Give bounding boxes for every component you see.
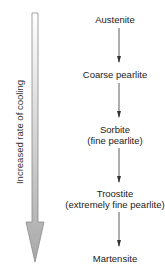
stage-coarse-pearlite: Coarse pearlite: [65, 69, 165, 80]
down-arrow-icon: [114, 83, 124, 119]
down-arrow-icon: [114, 148, 124, 184]
stage-sorbite: Sorbite (fine pearlite): [65, 124, 165, 146]
stage-name: Martensite: [65, 253, 165, 264]
stage-austenite: Austenite: [65, 14, 165, 25]
stage-detail: (fine pearlite): [65, 135, 165, 146]
down-arrow-icon: [114, 212, 124, 248]
stage-name: Troostite: [65, 188, 165, 199]
down-arrow-icon: [114, 28, 124, 64]
stage-name: Coarse pearlite: [65, 69, 165, 80]
stage-troostite: Troostite (extremely fine pearlite): [65, 188, 165, 210]
stage-name: Sorbite: [65, 124, 165, 135]
cooling-rate-label: Increased rate of cooling: [14, 80, 25, 184]
stage-martensite: Martensite: [65, 253, 165, 264]
stage-name: Austenite: [65, 14, 165, 25]
stage-detail: (extremely fine pearlite): [65, 199, 165, 210]
